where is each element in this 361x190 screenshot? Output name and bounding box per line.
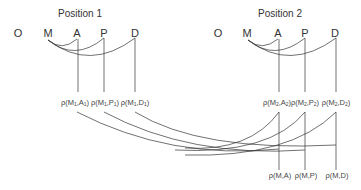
label-rho-m-p: ρ(M,P) [295,171,318,180]
node-d-1: D [131,27,139,39]
position-1-title: Position 1 [58,8,102,19]
position-2-title: Position 2 [258,8,302,19]
label-rho-m2-p2: ρ(M2,P2) [291,98,319,107]
label-rho-m-d: ρ(M,D) [325,171,348,180]
node-d-2: D [331,27,339,39]
node-o-2: O [214,27,223,39]
label-rho-m1-a1: ρ(M1,A1) [61,98,89,107]
node-m-1: M [43,27,52,39]
label-rho-m1-d1: ρ(M1,D1) [121,98,150,107]
node-p-2: P [301,27,308,39]
label-rho-m2-a2: ρ(M2,A2) [263,98,291,107]
label-rho-m1-p1: ρ(M1,P1) [91,98,119,107]
node-p-1: P [100,27,107,39]
node-o-1: O [14,27,23,39]
diagram: Position 1 O M A P D ρ(M1,A1) ρ(M1,P1) ρ… [0,0,361,190]
node-m-2: M [242,27,251,39]
node-a-2: A [274,27,281,39]
label-rho-m2-d2: ρ(M2,D2) [322,98,351,107]
node-a-1: A [73,27,80,39]
label-rho-m-a: ρ(M,A) [269,171,292,180]
